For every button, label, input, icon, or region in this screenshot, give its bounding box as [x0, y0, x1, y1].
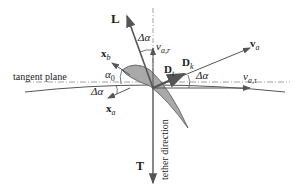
delta-alpha-top-label: Δα	[138, 32, 150, 43]
v-a-label: va	[250, 38, 260, 52]
airfoil-shape	[122, 65, 188, 128]
tether-direction-label: tether direction	[160, 119, 170, 180]
lift-label: L	[111, 12, 120, 25]
alpha-0-label: α0	[105, 69, 115, 83]
x-b-label: xb	[101, 48, 111, 62]
tangent-plane-label: tangent plane	[13, 72, 67, 82]
x-a-label: xa	[106, 103, 116, 117]
d-t-label: Dt	[164, 64, 174, 78]
v-a-r-label: va,r	[156, 41, 170, 55]
angle-arc-right	[188, 75, 190, 88]
v-a-tau-label: va,τ	[243, 71, 257, 85]
d-k-label: Dk	[182, 57, 194, 71]
delta-alpha-left-label: Δα	[91, 86, 103, 97]
tension-label: T	[136, 160, 144, 172]
angle-arc-left	[116, 85, 117, 94]
x-a-arrow	[108, 88, 130, 98]
angle-arc-top	[140, 50, 153, 52]
kite-force-diagram	[0, 0, 301, 186]
delta-alpha-right-label: Δα	[196, 70, 208, 81]
